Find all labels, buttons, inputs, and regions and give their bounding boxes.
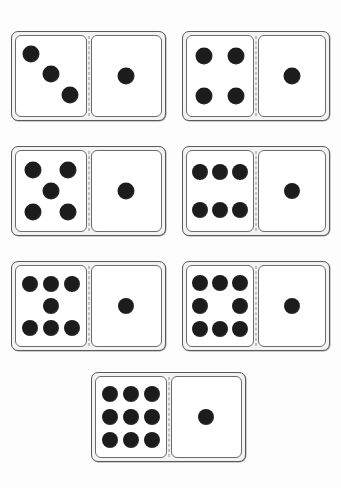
pip (192, 321, 208, 337)
pip (232, 164, 248, 180)
domino-divider (256, 266, 257, 346)
pip (212, 164, 228, 180)
pip (118, 183, 135, 200)
domino-tile-1 (11, 31, 166, 121)
pip (227, 48, 244, 65)
pip (123, 386, 139, 402)
domino-half-right (91, 35, 163, 117)
domino-half-right (91, 265, 163, 347)
domino-half-left (15, 150, 87, 232)
pip (227, 88, 244, 105)
pip (196, 88, 213, 105)
pip (64, 276, 80, 292)
pip (192, 164, 208, 180)
domino-tile-2 (182, 31, 330, 121)
domino-half-left (15, 35, 87, 117)
pip (212, 202, 228, 218)
domino-half-right (258, 35, 326, 117)
pip (144, 409, 160, 425)
domino-divider (88, 266, 89, 346)
pip (212, 321, 228, 337)
pip (42, 183, 59, 200)
pip (232, 275, 248, 291)
pip (43, 276, 59, 292)
domino-divider (88, 151, 89, 231)
domino-half-right (258, 265, 326, 347)
domino-half-right (171, 376, 243, 458)
pip (284, 183, 300, 199)
domino-tile-6 (182, 261, 330, 351)
pip (43, 298, 59, 314)
domino-sheet (0, 0, 341, 488)
pip (192, 298, 208, 314)
pip (192, 275, 208, 291)
pip (196, 48, 213, 65)
domino-half-left (95, 376, 167, 458)
pip (62, 87, 79, 104)
domino-tile-4 (182, 146, 330, 236)
domino-divider (88, 36, 89, 116)
domino-half-left (186, 150, 254, 232)
domino-divider (168, 377, 169, 457)
pip (118, 298, 134, 314)
pip (102, 409, 118, 425)
pip (123, 409, 139, 425)
pip (232, 202, 248, 218)
domino-half-right (258, 150, 326, 232)
domino-half-right (91, 150, 163, 232)
pip (144, 432, 160, 448)
domino-half-left (15, 265, 87, 347)
pip (42, 66, 59, 83)
pip (118, 68, 135, 85)
domino-tile-5 (11, 261, 166, 351)
pip (25, 203, 42, 220)
pip (198, 409, 214, 425)
pip (64, 320, 80, 336)
pip (102, 386, 118, 402)
pip (232, 298, 248, 314)
domino-tile-3 (11, 146, 166, 236)
pip (23, 45, 40, 62)
pip (102, 432, 118, 448)
domino-tile-7 (91, 372, 246, 462)
pip (60, 203, 77, 220)
pip (212, 275, 228, 291)
pip (22, 276, 38, 292)
pip (60, 162, 77, 179)
pip (43, 320, 59, 336)
pip (284, 68, 301, 85)
domino-half-left (186, 265, 254, 347)
pip (22, 320, 38, 336)
domino-divider (256, 151, 257, 231)
pip (123, 432, 139, 448)
pip (144, 386, 160, 402)
pip (25, 162, 42, 179)
domino-divider (256, 36, 257, 116)
domino-half-left (186, 35, 254, 117)
pip (284, 298, 300, 314)
pip (192, 202, 208, 218)
pip (232, 321, 248, 337)
